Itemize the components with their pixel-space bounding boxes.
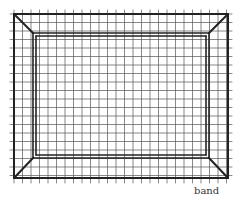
frame-band <box>14 14 228 178</box>
framed-grid-diagram <box>0 0 235 203</box>
band-label: band <box>194 186 219 196</box>
diagram-canvas: band <box>0 0 235 203</box>
